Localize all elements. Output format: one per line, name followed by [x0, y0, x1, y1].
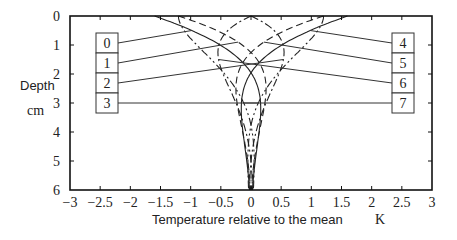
temperature-depth-chart: −3−2.5−2−1.5−1−0.500.511.522.53 0123456 … [0, 0, 457, 240]
leader-line-6 [219, 60, 392, 84]
x-tick-label: 1.5 [333, 195, 351, 210]
curve-labels: 01234567 [96, 31, 414, 114]
curve-label-3: 3 [104, 96, 111, 111]
curve-label-1: 1 [104, 56, 111, 71]
curve-label-2: 2 [104, 76, 111, 91]
x-tick-label: −0.5 [208, 195, 233, 210]
x-tick-label: 0 [248, 195, 255, 210]
leader-line-2 [118, 60, 283, 84]
x-tick-label: −1.5 [148, 195, 173, 210]
curve-label-4: 4 [400, 36, 407, 51]
y-tick-label: 5 [53, 154, 60, 169]
curve-label-0: 0 [104, 36, 111, 51]
x-tick-label: −2.5 [87, 195, 112, 210]
curve-label-7: 7 [400, 96, 407, 111]
curve-label-5: 5 [400, 56, 407, 71]
y-axis-unit: cm [27, 103, 44, 118]
x-tick-label: 2 [368, 195, 375, 210]
y-tick-label: 1 [53, 38, 60, 53]
x-tick-label: 0.5 [272, 195, 290, 210]
leader-line-4 [310, 31, 392, 44]
x-tick-label: 1 [308, 195, 315, 210]
y-tick-label: 4 [53, 125, 60, 140]
y-tick-label: 6 [53, 183, 60, 198]
y-tick-label: 0 [53, 9, 60, 24]
x-tick-label: −3 [63, 195, 78, 210]
x-tick-label: −1 [183, 195, 198, 210]
y-tick-label: 3 [53, 96, 60, 111]
x-axis-unit: K [375, 212, 385, 227]
curve-label-6: 6 [400, 76, 407, 91]
x-tick-label: 2.5 [393, 195, 411, 210]
x-tick-label: −2 [123, 195, 138, 210]
y-axis-title: Depth [20, 78, 55, 93]
leader-line-0 [118, 31, 192, 44]
x-tick-label: 3 [429, 195, 436, 210]
x-axis-title: Temperature relative to the mean [152, 212, 343, 227]
